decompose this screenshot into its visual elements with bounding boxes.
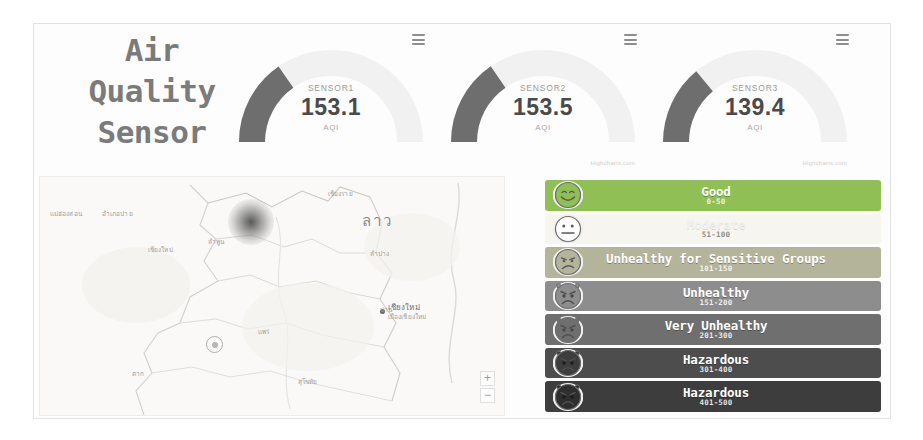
- sensor-map[interactable]: ลาว เชียงใหม่ เมืองเชียงใหม่ แม่ฮ่องสอน …: [39, 176, 505, 416]
- map-label-3: เชียงใหม่: [148, 245, 173, 255]
- sensor-heat-cluster: [228, 199, 274, 245]
- map-zoom-controls[interactable]: + −: [480, 371, 495, 403]
- map-label-chiangmai-district: เมืองเชียงใหม่: [388, 312, 426, 322]
- gauges-row: Air Quality Sensor SENSOR1 153.1: [34, 24, 891, 172]
- map-label-country: ลาว: [362, 209, 393, 233]
- chart-credit-sensor2: Highcharts.com: [591, 160, 635, 166]
- aqi-legend-row-hazardous-2[interactable]: Hazardous 401-500: [545, 381, 881, 412]
- page-title-line-1: Air: [62, 30, 242, 71]
- map-label-2: เชียงราย: [328, 189, 353, 199]
- gauge-card-sensor3: SENSOR3 139.4 AQI Highcharts.com: [653, 24, 857, 172]
- aqi-legend-row-good[interactable]: Good 0-50: [545, 180, 881, 211]
- neutral-face-icon: [545, 214, 591, 245]
- aqi-legend-row-unhealthy[interactable]: Unhealthy 151-200: [545, 281, 881, 312]
- aqi-legend-text: Good 0-50: [591, 185, 881, 206]
- gauge-arc-sensor3: [662, 50, 848, 146]
- aqi-legend-range: 401-500: [591, 399, 841, 407]
- frowning-face-icon: [545, 247, 591, 278]
- aqi-legend-text: Moderate 51-100: [591, 218, 881, 239]
- aqi-legend-name: Hazardous: [591, 353, 841, 366]
- aqi-legend-row-unhealthy-sensitive[interactable]: Unhealthy for Sensitive Groups 101-150: [545, 247, 881, 278]
- aqi-legend-range: 0-50: [591, 198, 841, 206]
- happy-face-icon: [545, 180, 591, 211]
- aqi-legend: Good 0-50 Moderate 51-100: [539, 176, 887, 416]
- map-label-5: ลำปาง: [370, 249, 389, 259]
- aqi-legend-row-hazardous-1[interactable]: Hazardous 301-400: [545, 348, 881, 379]
- aqi-legend-range: 101-150: [591, 265, 841, 273]
- aqi-legend-name: Unhealthy: [591, 286, 841, 299]
- sensor-circle-marker[interactable]: [206, 336, 223, 353]
- gauge-arc-sensor2: [450, 50, 636, 146]
- map-label-6: แพร่: [258, 327, 269, 337]
- map-label-8: สุโขทัย: [298, 377, 318, 387]
- page-title-line-3: Sensor: [62, 112, 242, 153]
- page-title-line-2: Quality: [62, 71, 242, 112]
- angry-dark-face-icon: [545, 314, 591, 345]
- gauge-sensor1: SENSOR1 153.1 AQI: [238, 50, 424, 146]
- gauge-arc-sensor1: [238, 50, 424, 146]
- aqi-legend-range: 151-200: [591, 299, 841, 307]
- aqi-legend-text: Unhealthy 151-200: [591, 286, 881, 307]
- angry-face-icon: [545, 281, 591, 312]
- air-quality-dashboard: Air Quality Sensor SENSOR1 153.1: [0, 0, 923, 440]
- aqi-legend-range: 301-400: [591, 366, 841, 374]
- map-label-7: ตาก: [132, 369, 144, 379]
- aqi-legend-name: Good: [591, 185, 841, 198]
- map-zoom-in-button[interactable]: +: [480, 371, 495, 386]
- aqi-legend-row-moderate[interactable]: Moderate 51-100: [545, 214, 881, 245]
- chart-credit-sensor3: Highcharts.com: [803, 160, 847, 166]
- aqi-legend-text: Very Unhealthy 201-300: [591, 319, 881, 340]
- hamburger-menu-icon[interactable]: [412, 34, 425, 45]
- gauge-card-sensor1: SENSOR1 153.1 AQI: [229, 24, 433, 172]
- map-zoom-out-button[interactable]: −: [480, 388, 495, 403]
- gauge-sensor3: SENSOR3 139.4 AQI: [662, 50, 848, 146]
- hamburger-menu-icon[interactable]: [624, 34, 637, 45]
- map-label-0: แม่ฮ่องสอน: [50, 209, 82, 219]
- map-label-4: ลำพูน: [208, 237, 224, 247]
- hamburger-menu-icon[interactable]: [836, 34, 849, 45]
- gauge-sensor2: SENSOR2 153.5 AQI: [450, 50, 636, 146]
- aqi-legend-row-very-unhealthy[interactable]: Very Unhealthy 201-300: [545, 314, 881, 345]
- aqi-legend-range: 201-300: [591, 332, 841, 340]
- map-label-1: อำเภอปาย: [102, 209, 133, 219]
- aqi-legend-range: 51-100: [591, 231, 841, 239]
- skull-face-icon: [545, 348, 591, 379]
- map-label-9: น่าน: [380, 305, 392, 315]
- aqi-legend-text: Unhealthy for Sensitive Groups 101-150: [591, 252, 881, 273]
- page-title: Air Quality Sensor: [62, 30, 242, 153]
- aqi-legend-text: Hazardous 301-400: [591, 353, 881, 374]
- skull-dark-face-icon: [545, 381, 591, 412]
- gauge-card-sensor2: SENSOR2 153.5 AQI Highcharts.com: [441, 24, 645, 172]
- aqi-legend-text: Hazardous 401-500: [591, 386, 881, 407]
- dashboard-frame: Air Quality Sensor SENSOR1 153.1: [33, 23, 891, 419]
